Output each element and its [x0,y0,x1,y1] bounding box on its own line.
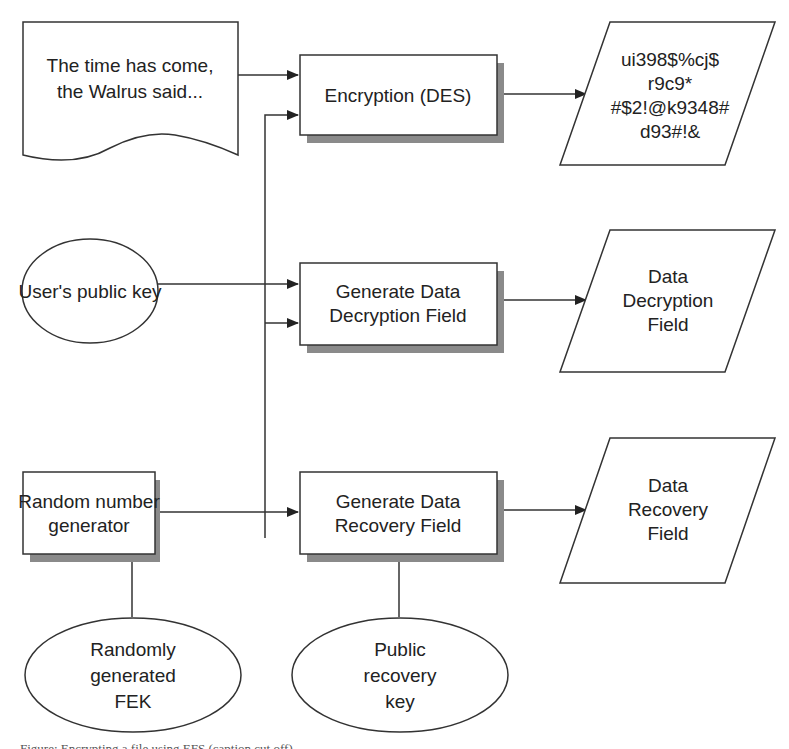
ciphertext-line-2: r9c9* [648,73,693,94]
rng-line-2: generator [48,515,130,536]
generate-ddf-process-node: Generate Data Decryption Field [300,263,504,353]
fek-node: Randomly generated FEK [25,618,241,732]
efs-flow-diagram: The time has come, the Walrus said... En… [0,0,789,749]
drf-line-1: Data [648,475,689,496]
ciphertext-line-1: ui398$%cj$ [621,49,720,70]
recovery-key-line-1: Public [374,639,426,660]
generate-drf-line-1: Generate Data [336,491,461,512]
figure-caption-cropped: Figure: Encrypting a file using EFS (cap… [20,741,580,749]
fek-line-3: FEK [115,691,152,712]
plaintext-line-2: the Walrus said... [57,81,203,102]
generate-drf-line-2: Recovery Field [335,515,462,536]
fek-line-2: generated [90,665,176,686]
ddf-line-3: Field [647,314,688,335]
drf-data-node: Data Recovery Field [560,438,775,583]
plaintext-line-1: The time has come, [47,55,214,76]
ciphertext-line-3: #$2!@k9348# [611,97,730,118]
drf-line-3: Field [647,523,688,544]
ddf-line-1: Data [648,266,689,287]
rng-process-node: Random number generator [18,472,160,562]
recovery-key-line-3: key [385,691,415,712]
drf-line-2: Recovery [628,499,709,520]
user-public-key-node: User's public key [18,239,162,343]
rng-line-1: Random number [18,491,160,512]
encryption-label: Encryption (DES) [325,85,472,106]
plaintext-document-node: The time has come, the Walrus said... [23,22,238,160]
encryption-process-node: Encryption (DES) [300,55,504,143]
generate-drf-process-node: Generate Data Recovery Field [300,472,504,562]
public-recovery-key-node: Public recovery key [292,618,508,732]
user-public-key-label: User's public key [18,281,162,302]
ddf-data-node: Data Decryption Field [560,230,775,372]
ciphertext-data-node: ui398$%cj$ r9c9* #$2!@k9348# d93#!& [560,22,775,165]
ddf-line-2: Decryption [623,290,714,311]
arrow-rng-to-encryption [265,115,298,538]
ciphertext-line-4: d93#!& [640,121,701,142]
generate-ddf-line-1: Generate Data [336,281,461,302]
recovery-key-line-2: recovery [364,665,437,686]
generate-ddf-line-2: Decryption Field [329,305,466,326]
fek-line-1: Randomly [90,639,176,660]
